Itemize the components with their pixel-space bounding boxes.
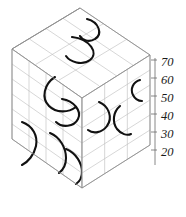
axis-tick-label-40: 40 (161, 109, 174, 123)
axis-tick-label-30: 30 (160, 127, 174, 141)
axis-tick-label-60: 60 (161, 73, 174, 87)
figure-container: 70 60 50 40 30 20 (0, 0, 186, 217)
isometric-block-diagram: 70 60 50 40 30 20 (0, 0, 186, 217)
axis-ticks (151, 60, 157, 150)
depth-axis: 70 60 50 40 30 20 (151, 55, 174, 165)
axis-tick-label-50: 50 (161, 91, 174, 105)
axis-tick-label-20: 20 (161, 145, 174, 159)
axis-tick-label-70: 70 (161, 55, 174, 69)
